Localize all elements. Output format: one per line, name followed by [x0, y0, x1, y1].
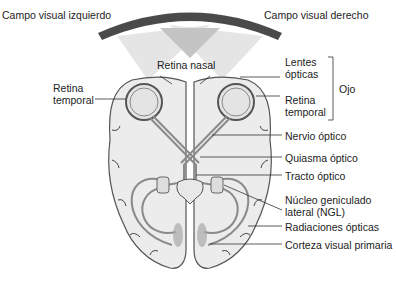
right-eye: [218, 84, 254, 120]
label-optic-tract: Tracto óptico: [285, 170, 345, 182]
label-line-2: temporal: [53, 94, 94, 106]
label-right-temporal-retina: Retina temporal: [285, 94, 326, 118]
label-line-1: Lentes: [285, 56, 318, 68]
label-left-visual-field: Campo visual izquierdo: [2, 9, 111, 21]
label-line-2: temporal: [285, 106, 326, 118]
label-left-temporal-retina: Retina temporal: [53, 82, 94, 106]
label-optic-chiasm: Quiasma óptico: [285, 152, 358, 164]
primary-visual-cortex-area: [173, 223, 207, 247]
label-optic-radiations: Radiaciones ópticas: [285, 221, 379, 233]
label-eye-group: Ojo: [339, 83, 355, 95]
label-line-1: Retina: [285, 94, 326, 106]
label-line-1: Núcleo geniculado: [285, 194, 371, 206]
label-line-1: Retina: [53, 82, 94, 94]
label-line-2: lateral (NGL): [285, 206, 371, 218]
label-optic-nerve: Nervio óptico: [285, 130, 346, 142]
label-optic-lens: Lentes ópticas: [285, 56, 318, 80]
label-right-visual-field: Campo visual derecho: [264, 9, 368, 21]
label-nasal-retina: Retina nasal: [157, 59, 215, 71]
label-line-2: ópticas: [285, 68, 318, 80]
label-primary-visual-cortex: Corteza visual primaria: [285, 239, 392, 251]
label-lgn: Núcleo geniculado lateral (NGL): [285, 194, 371, 218]
left-eye: [126, 84, 162, 120]
